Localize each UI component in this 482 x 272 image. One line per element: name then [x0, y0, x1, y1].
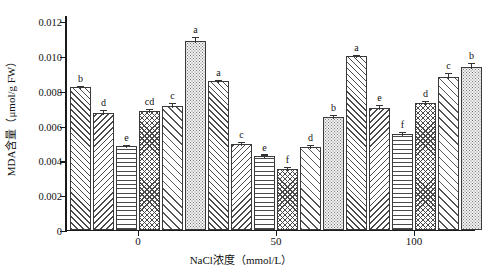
- significance-label: c: [446, 60, 450, 71]
- y-axis-line: [65, 16, 67, 232]
- error-bar: [402, 133, 403, 136]
- significance-label: b: [331, 102, 336, 113]
- y-tick-mark: [60, 22, 65, 23]
- error-bar-cap: [123, 145, 130, 146]
- bar: [208, 81, 229, 230]
- error-bar-cap: [261, 154, 268, 155]
- bar: [116, 146, 137, 230]
- significance-label: e: [377, 92, 381, 103]
- error-bar: [333, 116, 334, 119]
- bar: [461, 67, 482, 230]
- x-group-label: 100: [406, 235, 423, 247]
- y-tick-mark: [60, 57, 65, 58]
- significance-label: c: [170, 90, 174, 101]
- bar: [162, 106, 183, 230]
- bar: [392, 134, 413, 230]
- bar: [369, 108, 390, 230]
- significance-label: a: [216, 67, 220, 78]
- significance-label: d: [308, 132, 313, 143]
- significance-label: a: [193, 24, 197, 35]
- error-bar-cap: [238, 142, 245, 143]
- error-bar-cap: [215, 80, 222, 81]
- error-bar-cap: [468, 63, 475, 64]
- error-bar-cap: [330, 115, 337, 116]
- y-axis-tick-labels: 00.0020.0040.0060.0080.0100.012: [18, 0, 62, 272]
- error-bar: [241, 143, 242, 146]
- y-tick-mark: [60, 127, 65, 128]
- error-bar: [80, 87, 81, 89]
- y-tick-mark: [60, 92, 65, 93]
- error-bar: [149, 110, 150, 113]
- significance-label: d: [423, 88, 428, 99]
- error-bar: [172, 104, 173, 108]
- error-bar: [379, 106, 380, 110]
- y-tick-mark: [60, 231, 65, 232]
- error-bar: [310, 146, 311, 149]
- significance-label: a: [354, 42, 358, 53]
- error-bar: [471, 64, 472, 69]
- bar: [438, 77, 459, 230]
- y-tick-mark: [60, 161, 65, 162]
- plot-area: bdecdcaacefdbaefdcb: [65, 22, 475, 231]
- error-bar: [264, 156, 265, 158]
- significance-label: cd: [145, 96, 154, 107]
- error-bar-cap: [399, 132, 406, 133]
- error-bar-cap: [284, 167, 291, 168]
- significance-label: d: [101, 97, 106, 108]
- x-group-label: 0: [135, 235, 141, 247]
- error-bar-cap: [192, 37, 199, 38]
- y-tick-mark: [60, 196, 65, 197]
- significance-label: b: [78, 73, 83, 84]
- error-bar: [356, 56, 357, 58]
- x-axis-title: NaCl浓度（mmol/L）: [0, 251, 482, 267]
- significance-label: e: [124, 132, 128, 143]
- significance-label: f: [286, 154, 289, 165]
- error-bar-cap: [445, 73, 452, 74]
- y-axis-title-wrap: MDA含量（μmol/g FW）: [0, 0, 20, 232]
- significance-label: f: [401, 119, 404, 130]
- error-bar: [103, 111, 104, 115]
- y-tick-label: 0.004: [38, 156, 62, 167]
- bar: [254, 156, 275, 230]
- error-bar: [195, 38, 196, 43]
- bar: [415, 103, 436, 230]
- error-bar-cap: [376, 105, 383, 106]
- error-bar: [448, 74, 449, 79]
- y-axis-title: MDA含量（μmol/g FW）: [2, 56, 18, 176]
- y-tick-label: 0.008: [38, 86, 62, 97]
- error-bar-cap: [146, 109, 153, 110]
- significance-label: e: [262, 142, 266, 153]
- bar: [277, 169, 298, 230]
- error-bar: [126, 146, 127, 148]
- error-bar-cap: [100, 110, 107, 111]
- error-bar-cap: [307, 145, 314, 146]
- bar: [231, 144, 252, 230]
- x-group-label: 50: [271, 235, 282, 247]
- error-bar: [218, 81, 219, 83]
- y-tick-label: 0.002: [38, 191, 62, 202]
- bar: [346, 56, 367, 230]
- significance-label: c: [239, 129, 243, 140]
- bar: [93, 113, 114, 230]
- error-bar-cap: [353, 55, 360, 56]
- bar: [70, 87, 91, 230]
- y-tick-label: 0.012: [38, 17, 62, 28]
- error-bar-cap: [169, 103, 176, 104]
- y-tick-label: 0.010: [38, 51, 62, 62]
- bar: [323, 117, 344, 230]
- y-tick-label: 0.006: [38, 121, 62, 132]
- mda-bar-chart: MDA含量（μmol/g FW） 00.0020.0040.0060.0080.…: [0, 0, 482, 272]
- bar: [300, 147, 321, 230]
- bar: [185, 41, 206, 230]
- bar: [139, 111, 160, 230]
- error-bar: [425, 102, 426, 105]
- error-bar-cap: [77, 86, 84, 87]
- significance-label: b: [469, 50, 474, 61]
- error-bar-cap: [422, 101, 429, 102]
- error-bar: [287, 168, 288, 170]
